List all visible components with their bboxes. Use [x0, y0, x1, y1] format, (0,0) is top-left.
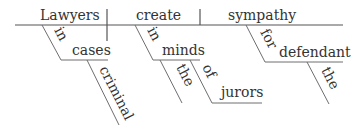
nested-prep-word: of	[199, 61, 220, 82]
object-word: sympathy	[228, 7, 296, 23]
the-word-2: the	[318, 64, 343, 92]
verb-prep-object-word: minds	[162, 42, 205, 58]
verb-prep-word: in	[144, 24, 164, 43]
object-prep-word: for	[257, 26, 281, 52]
subject-prep-word: in	[51, 24, 71, 43]
subject-prep-object-word: cases	[72, 42, 111, 58]
verb-word: create	[136, 7, 181, 23]
object-prep-object-word: defendant	[279, 44, 351, 60]
subject-word: Lawyers	[40, 7, 100, 23]
sentence-diagram: Lawyers create sympathy in cases crimina…	[0, 0, 361, 132]
criminal-word: criminal	[96, 63, 137, 123]
nested-prep-object-word: jurors	[219, 84, 263, 100]
the-word-1: the	[173, 61, 198, 89]
